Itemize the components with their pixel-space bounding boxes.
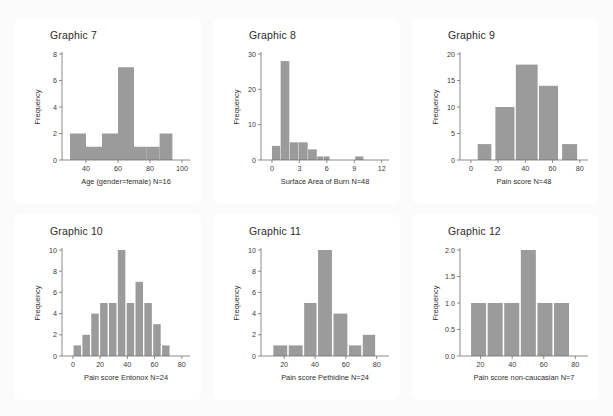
y-tick-label: 8 [53, 267, 57, 276]
y-tick-label: 0.5 [445, 325, 455, 334]
x-tick-label: 100 [176, 164, 188, 173]
y-tick-label: 6 [53, 288, 57, 297]
x-tick-label: 60 [151, 360, 159, 369]
histogram-bar [290, 142, 299, 160]
histogram-bar [299, 142, 308, 160]
chart-card-graphic-9: Graphic 9 05101520020406080Pain score N=… [412, 18, 599, 204]
histogram-bar [147, 147, 160, 160]
histogram-bar [516, 65, 538, 160]
x-tick-label: 40 [123, 360, 131, 369]
histogram-bar [127, 303, 134, 356]
x-axis-title: Surface Area of Burn N=48 [281, 177, 370, 186]
histogram-bar [324, 156, 330, 160]
y-tick-label: 1.0 [445, 299, 455, 308]
histogram-bar [521, 250, 536, 356]
y-tick-label: 0 [252, 156, 256, 165]
chart-svg-graphic-8: 0102030036912Surface Area of Burn N=48Fr… [213, 18, 400, 204]
histogram-bar [162, 345, 169, 356]
histogram-bar [471, 303, 486, 356]
x-axis-title: Pain score non-caucasian N=7 [474, 373, 575, 382]
histogram-bar [333, 314, 347, 356]
histogram-bar [478, 144, 492, 160]
histogram-bar [70, 134, 86, 161]
x-tick-label: 40 [521, 164, 529, 173]
y-axis-title: Frequency [33, 89, 42, 124]
x-tick-label: 80 [576, 164, 584, 173]
x-tick-label: 20 [477, 360, 485, 369]
x-tick-label: 60 [540, 360, 548, 369]
histogram-bar [91, 314, 98, 356]
y-tick-label: 0.0 [445, 352, 455, 361]
chart-card-graphic-8: Graphic 8 0102030036912Surface Area of B… [213, 18, 400, 204]
histogram-bar [134, 147, 147, 160]
histogram-bar [281, 61, 290, 160]
y-tick-label: 0 [252, 352, 256, 361]
histogram-bar [537, 303, 552, 356]
x-tick-label: 6 [325, 164, 329, 173]
chart-card-graphic-11: Graphic 11 024681020406080Pain score Pet… [213, 214, 400, 400]
x-tick-label: 80 [178, 360, 186, 369]
histogram-bar [363, 335, 375, 356]
histogram-bar [317, 156, 323, 160]
x-tick-label: 12 [378, 164, 386, 173]
histogram-bar [160, 134, 173, 161]
chart-svg-graphic-10: 0246810020406080Pain score Entonox N=24F… [14, 214, 201, 400]
y-tick-label: 4 [53, 103, 57, 112]
histogram-bar [272, 146, 280, 160]
x-axis-title: Pain score Entonox N=24 [84, 373, 168, 382]
x-tick-label: 40 [311, 360, 319, 369]
histogram-bar [153, 324, 160, 356]
histogram-bar [82, 335, 89, 356]
x-tick-label: 80 [571, 360, 579, 369]
histogram-bar [308, 149, 317, 160]
y-axis-title: Frequency [232, 285, 241, 320]
histogram-bar [318, 250, 332, 356]
chart-grid: Graphic 7 02468406080100Age (gender=fema… [14, 18, 599, 400]
y-tick-label: 4 [252, 309, 256, 318]
y-tick-label: 2 [53, 330, 57, 339]
y-tick-label: 2 [53, 129, 57, 138]
y-tick-label: 0 [53, 156, 57, 165]
x-tick-label: 0 [469, 164, 473, 173]
x-tick-label: 80 [373, 360, 381, 369]
histogram-bar [100, 303, 107, 356]
histogram-bar [355, 156, 363, 160]
y-tick-label: 6 [53, 76, 57, 85]
y-tick-label: 8 [53, 50, 57, 59]
histogram-bar [562, 144, 577, 160]
y-tick-label: 20 [447, 50, 455, 59]
bars-group [471, 250, 569, 356]
y-tick-label: 0 [451, 156, 455, 165]
x-axis-title: Age (gender=female) N=16 [81, 177, 171, 186]
histogram-bar [554, 303, 569, 356]
x-tick-label: 3 [297, 164, 301, 173]
y-tick-label: 20 [248, 85, 256, 94]
histogram-bar [118, 250, 125, 356]
y-tick-label: 10 [49, 246, 57, 255]
x-tick-label: 20 [96, 360, 104, 369]
x-axis-title: Pain score Pethidine N=24 [281, 373, 369, 382]
x-tick-label: 40 [508, 360, 516, 369]
chart-card-graphic-10: Graphic 10 0246810020406080Pain score En… [14, 214, 201, 400]
bars-group [74, 250, 170, 356]
chart-svg-graphic-9: 05101520020406080Pain score N=48Frequenc… [412, 18, 599, 204]
x-tick-label: 0 [71, 360, 75, 369]
histogram-bar [488, 303, 503, 356]
histogram-bar [118, 67, 134, 160]
chart-svg-graphic-7: 02468406080100Age (gender=female) N=16Fr… [14, 18, 201, 204]
chart-svg-graphic-12: 0.00.51.01.52.020406080Pain score non-ca… [412, 214, 599, 400]
y-tick-label: 4 [53, 309, 57, 318]
y-tick-label: 5 [451, 129, 455, 138]
chart-svg-graphic-11: 024681020406080Pain score Pethidine N=24… [213, 214, 400, 400]
y-tick-label: 10 [248, 120, 256, 129]
x-tick-label: 60 [342, 360, 350, 369]
histogram-bar [102, 134, 118, 161]
page-root: Graphic 7 02468406080100Age (gender=fema… [0, 0, 613, 416]
bars-group [272, 61, 363, 160]
histogram-bar [136, 282, 143, 356]
y-axis-title: Frequency [232, 89, 241, 124]
chart-card-graphic-7: Graphic 7 02468406080100Age (gender=fema… [14, 18, 201, 204]
x-tick-label: 0 [270, 164, 274, 173]
histogram-bar [349, 345, 361, 356]
x-tick-label: 20 [494, 164, 502, 173]
